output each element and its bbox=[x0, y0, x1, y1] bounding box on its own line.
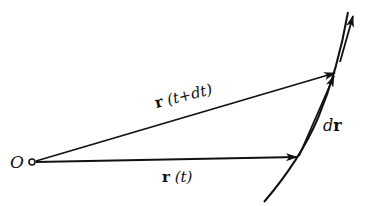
label-r-t: r (t) bbox=[162, 170, 192, 185]
diagram-canvas: O r (t+dt) r (t) dr bbox=[0, 0, 379, 206]
label-dr: dr bbox=[323, 118, 342, 134]
label-dr-symbol: r bbox=[333, 116, 341, 135]
trajectory-curve bbox=[264, 12, 348, 202]
origin-point-icon bbox=[29, 159, 35, 165]
label-r-t-symbol: r bbox=[162, 168, 170, 186]
label-r-t-arg: (t) bbox=[175, 168, 193, 186]
origin-label: O bbox=[10, 154, 24, 171]
label-dr-prefix: d bbox=[323, 116, 333, 135]
origin-label-text: O bbox=[10, 152, 24, 172]
vector-r-t bbox=[36, 157, 297, 162]
